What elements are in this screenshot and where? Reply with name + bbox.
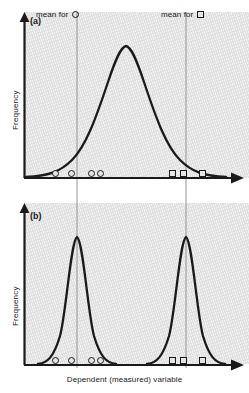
panel-label-b: (b) [30, 212, 42, 221]
panel-b: (b) Frequency [0, 196, 249, 393]
distribution-curve-a [26, 46, 226, 177]
data-point-square [169, 170, 176, 177]
x-axis-arrow-a [231, 173, 244, 184]
mean-annotation-circle-text: mean for [36, 10, 68, 19]
panel-b-graphics [0, 196, 249, 393]
data-point-square [169, 357, 176, 364]
data-point-circle [68, 357, 75, 364]
data-point-square [199, 357, 206, 364]
data-point-circle [52, 357, 59, 364]
y-axis-arrow-a [20, 12, 30, 22]
square-marker-icon [197, 11, 204, 18]
data-point-circle [97, 357, 104, 364]
data-point-circle [97, 170, 104, 177]
data-point-square [180, 357, 187, 364]
data-point-circle [88, 357, 95, 364]
y-axis-label-b: Frequency [11, 286, 20, 326]
panel-a-graphics [0, 0, 249, 196]
y-axis-arrow-b [20, 203, 30, 213]
data-point-circle [68, 170, 75, 177]
data-point-square [199, 170, 206, 177]
mean-annotation-circle: mean for [36, 10, 79, 19]
mean-annotation-square-text: mean for [161, 10, 193, 19]
x-axis-arrow-b [231, 360, 244, 371]
circle-marker-icon [72, 11, 79, 18]
statistics-figure: (a) Frequency mean for mean for [0, 0, 249, 393]
y-axis-label-a: Frequency [11, 90, 20, 130]
x-axis-label: Dependent (measured) variable [0, 375, 249, 384]
mean-annotation-square: mean for [161, 10, 204, 19]
data-point-circle [88, 170, 95, 177]
panel-a: (a) Frequency mean for mean for [0, 0, 249, 196]
data-point-circle [52, 170, 59, 177]
data-point-square [180, 170, 187, 177]
